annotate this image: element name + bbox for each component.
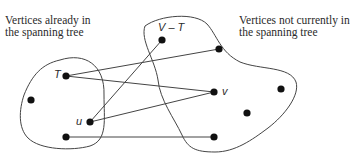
vertex-right — [277, 85, 284, 92]
non-tree-region-boundary — [144, 16, 297, 152]
vertex-label-v: v — [222, 85, 228, 97]
vertex-v — [210, 88, 217, 95]
vertex-label-V-T: V – T — [158, 21, 184, 33]
vertex-label-T: T — [54, 68, 61, 80]
vertex-V-T — [158, 36, 165, 43]
vertex-T — [62, 72, 69, 79]
vertex-left — [27, 96, 34, 103]
vertex-top-right — [215, 45, 222, 52]
vertex-bottom-left — [62, 133, 69, 140]
edge-T-v — [66, 76, 214, 92]
vertex-u — [86, 118, 93, 125]
vertex-middle-right — [243, 109, 250, 116]
vertex-label-u: u — [76, 115, 82, 127]
vertex-bottom-right — [210, 133, 217, 140]
edge-u-V-T — [90, 40, 162, 122]
edge-u-v — [90, 92, 214, 122]
